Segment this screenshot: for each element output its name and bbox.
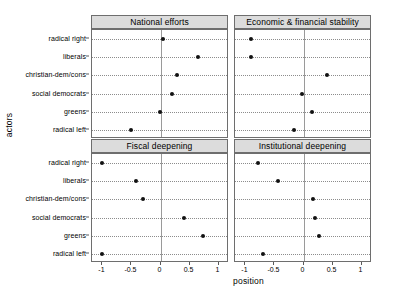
gridline-horizontal [235, 130, 370, 131]
data-point [300, 92, 304, 96]
y-tick-mark [86, 198, 89, 199]
gridline-horizontal [92, 57, 227, 58]
x-tick-label: 0 [158, 266, 162, 273]
gridline-horizontal [235, 39, 370, 40]
zero-reference-line [304, 30, 305, 137]
y-tick-mark [86, 162, 89, 163]
zero-reference-line [161, 30, 162, 137]
data-point [141, 197, 145, 201]
y-tick-mark [86, 38, 89, 39]
y-tick-label: greens [64, 107, 86, 114]
gridline-horizontal [92, 218, 227, 219]
gridline-horizontal [92, 199, 227, 200]
chart-figure: actors position radical rightliberalschr… [0, 0, 415, 297]
zero-reference-line [304, 154, 305, 261]
x-tick-mark [160, 262, 161, 265]
x-tick-label: -0.5 [124, 266, 136, 273]
x-tick-mark [273, 262, 274, 265]
gridline-horizontal [92, 181, 227, 182]
gridline-horizontal [92, 39, 227, 40]
panel-plot-area [234, 153, 371, 262]
panel-strip-label: National efforts [91, 15, 228, 29]
x-tick-label: 0.5 [327, 266, 337, 273]
chart-panel: Institutional deepening [234, 139, 371, 262]
gridline-horizontal [92, 130, 227, 131]
x-axis: -1-0.500.51 [91, 262, 228, 280]
zero-reference-line [161, 154, 162, 261]
gridline-horizontal [92, 236, 227, 237]
x-tick-label: 0.5 [184, 266, 194, 273]
panel-strip-label: Economic & financial stability [234, 15, 371, 29]
y-tick-label: social democrats [32, 213, 86, 220]
y-tick-label: radical right [49, 35, 86, 42]
y-axis-label-text: actors [4, 113, 14, 137]
gridline-horizontal [92, 254, 227, 255]
x-tick-mark [303, 262, 304, 265]
y-tick-mark [86, 110, 89, 111]
gridline-horizontal [235, 254, 370, 255]
y-tick-mark [86, 74, 89, 75]
x-axis: -1-0.500.51 [234, 262, 371, 280]
gridline-horizontal [235, 199, 370, 200]
data-point [175, 73, 179, 77]
panel-plot-area [91, 153, 228, 262]
gridline-horizontal [235, 181, 370, 182]
data-point [310, 110, 314, 114]
data-point [313, 216, 317, 220]
y-axis-label: actors [2, 0, 16, 250]
gridline-horizontal [235, 218, 370, 219]
y-tick-label: christian-dem/cons [25, 195, 86, 202]
y-axis-tick-labels: radical rightliberalschristian-dem/conss… [17, 29, 89, 138]
data-point [129, 128, 133, 132]
gridline-horizontal [92, 163, 227, 164]
chart-panel: Fiscal deepening [91, 139, 228, 262]
data-point [201, 234, 205, 238]
x-tick-label: -1 [241, 266, 247, 273]
data-point [161, 37, 165, 41]
x-tick-mark [361, 262, 362, 265]
x-tick-label: 0 [301, 266, 305, 273]
gridline-horizontal [92, 75, 227, 76]
x-tick-label: 1 [216, 266, 220, 273]
y-tick-label: radical right [49, 159, 86, 166]
panel-strip-label: Institutional deepening [234, 139, 371, 153]
data-point [100, 161, 104, 165]
data-point [249, 37, 253, 41]
gridline-horizontal [92, 94, 227, 95]
data-point [170, 92, 174, 96]
data-point [100, 252, 104, 256]
y-tick-label: liberals [63, 53, 86, 60]
panel-plot-area [91, 29, 228, 138]
x-tick-mark [101, 262, 102, 265]
x-tick-mark [189, 262, 190, 265]
x-tick-mark [244, 262, 245, 265]
y-tick-mark [86, 216, 89, 217]
y-tick-mark [86, 56, 89, 57]
data-point [292, 128, 296, 132]
y-tick-mark [86, 180, 89, 181]
y-tick-label: social democrats [32, 89, 86, 96]
y-tick-label: christian-dem/cons [25, 71, 86, 78]
data-point [325, 73, 329, 77]
gridline-horizontal [235, 236, 370, 237]
gridline-horizontal [235, 75, 370, 76]
x-tick-label: -0.5 [267, 266, 279, 273]
chart-panel: Economic & financial stability [234, 15, 371, 138]
data-point [261, 252, 265, 256]
data-point [276, 179, 280, 183]
chart-panel: National efforts [91, 15, 228, 138]
y-axis-tick-labels: radical rightliberalschristian-dem/conss… [17, 153, 89, 262]
data-point [249, 55, 253, 59]
x-tick-mark [218, 262, 219, 265]
y-tick-mark [86, 92, 89, 93]
y-tick-label: liberals [63, 177, 86, 184]
gridline-horizontal [235, 112, 370, 113]
panel-plot-area [234, 29, 371, 138]
data-point [196, 55, 200, 59]
y-tick-label: radical left [53, 125, 86, 132]
panel-strip-label: Fiscal deepening [91, 139, 228, 153]
y-tick-label: greens [64, 231, 86, 238]
data-point [182, 216, 186, 220]
x-tick-mark [130, 262, 131, 265]
data-point [317, 234, 321, 238]
